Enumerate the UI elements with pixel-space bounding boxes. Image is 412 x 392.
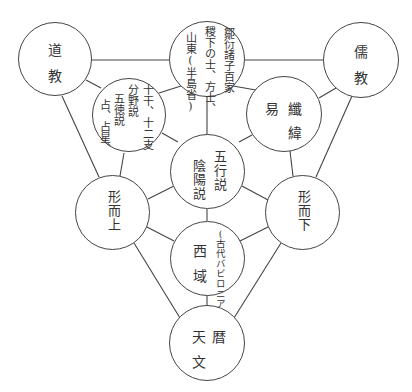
node-ganzhi-line-4: 占、占星、 — [98, 99, 110, 154]
node-ganzhi-line-3: 五徳説 — [112, 93, 124, 126]
node-ganzhi-line-1: 十干、十二支 — [141, 84, 153, 150]
node-physical-label: 形而下 — [296, 190, 310, 232]
node-physical: 形而下 — [265, 175, 340, 250]
node-western-regions-char-1: 西 — [193, 240, 207, 260]
node-ganzhi: 十干、十二支 分野説 五徳説 占、占星、 — [92, 78, 166, 152]
node-yiweiwei-char-2: 纖 — [288, 98, 302, 118]
node-taoism-char-2: 教 — [48, 65, 62, 85]
node-wuxing: 五行説 陰陽説 — [170, 134, 245, 209]
node-astronomy-char-1: 天 — [192, 326, 206, 346]
node-confucianism-char-2: 教 — [354, 67, 368, 87]
node-zou-yan-line-3: 山東(半島省) — [184, 32, 196, 113]
node-taoism-char-1: 道 — [48, 39, 62, 59]
node-yiweiwei-char-3: 緯 — [288, 122, 302, 142]
node-astronomy-char-3: 文 — [192, 351, 206, 371]
node-zou-yan-line-1: 鄒衍諸子百家 — [222, 27, 234, 93]
node-western-regions: 西 域 (古代バビロニア) — [170, 221, 245, 296]
node-yiweiwei: 易 纖 緯 — [246, 76, 322, 152]
node-metaphysical-label: 形而上 — [106, 190, 120, 232]
node-wuxing-line-1: 五行説 — [212, 150, 226, 192]
node-taoism: 道 教 — [18, 22, 92, 96]
node-metaphysical: 形而上 — [75, 175, 150, 250]
node-ganzhi-line-2: 分野説 — [126, 84, 138, 117]
node-astronomy: 天 暦 文 — [169, 305, 245, 381]
node-zou-yan: 鄒衍諸子百家 稷下の士、方士、 山東(半島省) — [169, 21, 245, 97]
node-wuxing-line-2: 陰陽説 — [191, 159, 205, 201]
node-confucianism: 儒 教 — [323, 22, 399, 98]
node-yiweiwei-char-1: 易 — [265, 98, 279, 118]
node-western-regions-char-2: 域 — [193, 265, 207, 285]
node-confucianism-char-1: 儒 — [354, 41, 368, 61]
node-astronomy-char-2: 暦 — [212, 326, 226, 346]
node-zou-yan-line-2: 稷下の士、方士、 — [203, 26, 215, 114]
